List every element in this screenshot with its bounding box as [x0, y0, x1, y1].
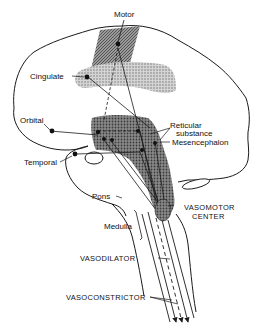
label-motor: Motor: [114, 10, 134, 19]
label-medulla: Medulla: [104, 222, 132, 231]
label-orbital: Orbital: [20, 116, 44, 125]
pons-outline: [112, 204, 144, 296]
label-center: CENTER: [192, 212, 225, 221]
medulla-bracket: [134, 210, 142, 240]
label-vasodilator: VASODILATOR: [80, 254, 135, 263]
label-pons: Pons: [92, 192, 110, 201]
cerebellum-oval: [181, 177, 210, 192]
label-mesencephalon: Mesencephalon: [172, 138, 228, 147]
vasomotor-diagram: Motor Cingulate Orbital Temporal Reticul…: [0, 0, 272, 332]
label-temporal: Temporal: [24, 158, 57, 167]
label-vasoconstrictor: VASOCONSTRICTOR: [66, 293, 146, 302]
vasomotor-center: [155, 199, 171, 221]
label-substance: substance: [176, 129, 212, 138]
descending-tracts: [142, 212, 194, 322]
label-vasomotor: VASOMOTOR: [184, 203, 235, 212]
label-cingulate: Cingulate: [30, 72, 64, 81]
